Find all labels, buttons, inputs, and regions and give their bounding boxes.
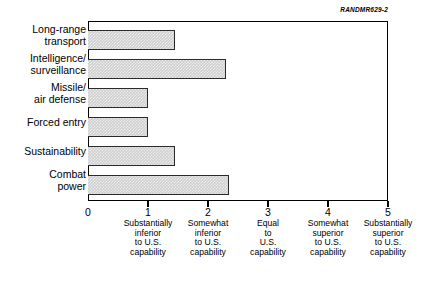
category-label-forced-entry: Forced entry [27,117,86,129]
x-tick-label: 0 [58,206,118,218]
x-tick-label: 1 [118,206,178,218]
bars-layer [88,21,388,201]
category-label-long-range-transport: Long-range transport [32,24,86,47]
bar-sustainability [88,146,175,166]
category-label-intelligence-surveillance: Intelligence/ surveillance [30,53,86,76]
bar-intelligence-surveillance [88,59,226,79]
x-tick-label: 5 [358,206,418,218]
x-tick-label: 2 [178,206,238,218]
bar-missile-air-defense [88,88,148,108]
x-tick-label: 3 [238,206,298,218]
category-label-sustainability: Sustainability [24,146,86,158]
bar-combat-power [88,175,229,195]
x-tick-description: Substantially superior to U.S. capabilit… [350,219,426,257]
figure-id-label: RANDMR629-2 [340,6,388,13]
x-tick-label: 4 [298,206,358,218]
category-label-combat-power: Combat power [49,169,86,192]
category-label-missile-air-defense: Missile/ air defense [34,82,86,105]
bar-long-range-transport [88,30,175,50]
figure-root: RANDMR629-2 Long-range transport Intelli… [0,0,432,282]
bar-forced-entry [88,117,148,137]
